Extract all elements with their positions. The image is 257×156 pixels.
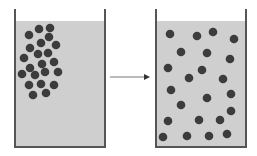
particle	[227, 107, 236, 116]
arrow-head-icon	[144, 74, 150, 80]
particle	[26, 64, 35, 73]
particle	[226, 55, 235, 64]
particle	[166, 30, 175, 39]
particle	[42, 89, 51, 98]
particle	[46, 24, 55, 33]
particle	[50, 58, 59, 67]
particle	[38, 60, 47, 69]
particle	[25, 81, 34, 90]
particle	[230, 35, 239, 44]
particle	[205, 132, 214, 141]
particle	[29, 91, 38, 100]
particle	[164, 117, 173, 126]
particle	[167, 86, 176, 95]
particle	[209, 28, 218, 37]
particle	[52, 41, 61, 50]
particle	[198, 66, 207, 75]
particle	[203, 49, 212, 58]
right-beaker-after	[156, 9, 246, 147]
particle	[183, 132, 192, 141]
particle	[54, 68, 63, 77]
particle	[37, 39, 46, 48]
particle	[34, 50, 43, 59]
particle	[18, 70, 27, 79]
particle	[159, 133, 168, 142]
transition-arrow	[110, 74, 150, 80]
particle	[195, 116, 204, 125]
particle	[227, 90, 236, 99]
particle	[193, 32, 202, 41]
particle	[164, 64, 173, 73]
particle	[37, 80, 46, 89]
particle	[216, 116, 225, 125]
particle	[223, 130, 232, 139]
left-beaker-before	[15, 9, 105, 147]
particle	[20, 54, 29, 63]
particle	[26, 44, 35, 53]
particle	[50, 81, 59, 90]
particle	[44, 49, 53, 58]
particle	[185, 74, 194, 83]
particle	[25, 31, 34, 40]
diffusion-diagram	[0, 0, 257, 156]
particle	[31, 71, 40, 80]
particle	[203, 94, 212, 103]
particle	[41, 68, 50, 77]
particle	[177, 48, 186, 57]
particle	[45, 33, 54, 42]
particle	[35, 25, 44, 34]
particle	[177, 101, 186, 110]
particle	[219, 75, 228, 84]
